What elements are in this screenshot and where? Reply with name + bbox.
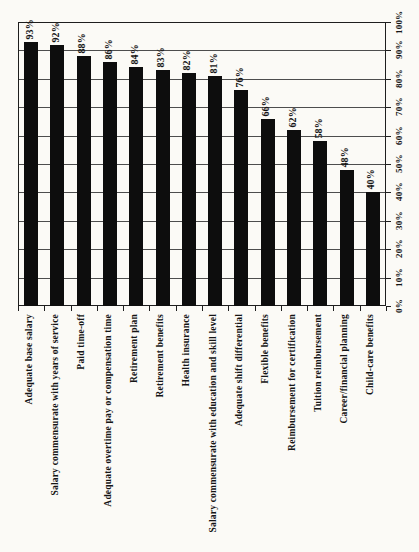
bar [156, 70, 170, 306]
value-axis-tick [386, 107, 391, 108]
gridline [19, 278, 385, 279]
bar-value-label: 76% [235, 67, 245, 88]
bar [103, 62, 117, 306]
category-axis-tick [255, 306, 256, 311]
gridline [19, 221, 385, 222]
bar [313, 141, 327, 306]
value-axis-tick [386, 278, 391, 279]
category-axis-tick [176, 306, 177, 311]
category-axis-tick [44, 306, 45, 311]
bar-value-label: 66% [261, 96, 271, 117]
category-axis-tick [386, 306, 387, 311]
category-axis-tick [97, 306, 98, 311]
bar-value-label: 92% [51, 22, 61, 43]
category-label: Retirement plan [130, 314, 140, 383]
bar [366, 192, 380, 306]
value-axis-tick [386, 79, 391, 80]
category-label: Retirement benefits [156, 314, 166, 398]
gridline [19, 249, 385, 250]
gridline [19, 107, 385, 108]
category-label: Reimbursement for certification [288, 314, 298, 451]
category-label: Paid time-off [77, 314, 87, 370]
category-axis-tick [228, 306, 229, 311]
gridline [19, 136, 385, 137]
bar-value-label: 40% [366, 169, 376, 190]
bar [287, 130, 301, 306]
scanned-bar-chart-page: 0%10%20%30%40%50%60%70%80%90%100%93%Adeq… [0, 0, 419, 552]
bar [24, 42, 38, 306]
bar-value-label: 81% [209, 53, 219, 74]
value-axis-tick [386, 22, 391, 23]
value-axis-tick [386, 136, 391, 137]
bar-value-label: 84% [130, 44, 140, 65]
category-axis-tick [202, 306, 203, 311]
gridline [19, 192, 385, 193]
category-axis-tick [333, 306, 334, 311]
bar-value-label: 86% [104, 39, 114, 60]
category-label: Adequate overtime pay or compensation ti… [104, 314, 114, 507]
value-axis-tick [386, 192, 391, 193]
bar [50, 45, 64, 306]
category-label: Health insurance [182, 314, 192, 387]
category-label: Career/financial planning [340, 314, 350, 424]
bar-value-label: 58% [314, 118, 324, 139]
gridline [19, 164, 385, 165]
bar [77, 56, 91, 306]
bar-value-label: 83% [156, 47, 166, 68]
bar [129, 67, 143, 306]
bar [208, 76, 222, 306]
value-axis-tick [386, 221, 391, 222]
bar-value-label: 82% [182, 50, 192, 71]
category-label: Salary commensurate with education and s… [209, 314, 219, 532]
bar [234, 90, 248, 306]
category-axis-tick [71, 306, 72, 311]
axis-tick-label: 100% [395, 0, 408, 44]
value-axis-tick [386, 249, 391, 250]
gridline [19, 50, 385, 51]
category-axis-tick [307, 306, 308, 311]
category-axis-tick [360, 306, 361, 311]
category-label: Child-care benefits [366, 314, 376, 395]
bar-value-label: 48% [340, 147, 350, 168]
category-label: Salary commensurate with years of servic… [51, 314, 61, 496]
bar [182, 73, 196, 306]
bar [340, 170, 354, 306]
category-axis-tick [281, 306, 282, 311]
category-label: Adequate shift differential [235, 314, 245, 426]
bar-value-label: 62% [288, 107, 298, 128]
category-label: Adequate base salary [25, 314, 35, 405]
category-label: Flexible benefits [261, 314, 271, 384]
value-axis-tick [386, 164, 391, 165]
bar-value-label: 88% [77, 33, 87, 54]
category-axis-tick [18, 306, 19, 311]
bar [261, 119, 275, 306]
category-axis-tick [149, 306, 150, 311]
bar-value-label: 93% [25, 19, 35, 40]
value-axis-tick [386, 50, 391, 51]
gridline [19, 79, 385, 80]
category-label: Tuition reimbursement [314, 314, 324, 412]
category-axis-tick [123, 306, 124, 311]
